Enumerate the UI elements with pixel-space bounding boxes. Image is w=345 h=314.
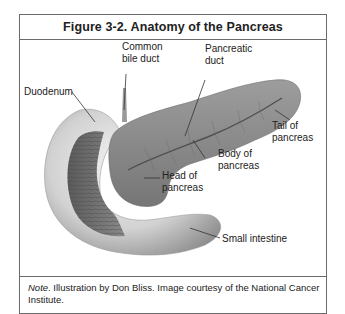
label-common-bile-duct: Common bile duct <box>122 41 163 65</box>
label-duodenum: Duodenum <box>24 86 73 98</box>
figure-note: Note. Illustration by Don Bliss. Image c… <box>28 282 323 306</box>
figure-frame: Figure 3-2. Anatomy of the Pancreas <box>19 14 327 314</box>
note-text: . Illustration by Don Bliss. Image court… <box>28 282 319 305</box>
note-prefix: Note <box>28 282 48 293</box>
figure-title-bar: Figure 3-2. Anatomy of the Pancreas <box>20 15 326 40</box>
label-small-intestine: Small intestine <box>222 233 287 245</box>
pancreas-illustration: Common bile duct Pancreatic duct Duodenu… <box>20 40 326 277</box>
label-pancreatic-duct: Pancreatic duct <box>205 43 252 67</box>
label-body-of-pancreas: Body of pancreas <box>218 148 259 172</box>
figure-title: Figure 3-2. Anatomy of the Pancreas <box>63 20 283 34</box>
label-tail-of-pancreas: Tail of pancreas <box>272 120 313 144</box>
label-head-of-pancreas: Head of pancreas <box>162 170 203 194</box>
